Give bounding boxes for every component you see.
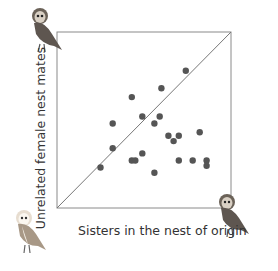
diagonal-reference-line (57, 32, 231, 208)
data-point (157, 113, 163, 119)
data-point (203, 163, 209, 169)
data-point (176, 157, 182, 163)
data-point (132, 157, 138, 163)
data-point (97, 164, 103, 170)
data-point (110, 145, 116, 151)
data-point (190, 157, 196, 163)
data-point (151, 170, 157, 176)
data-point (176, 133, 182, 139)
data-point (110, 120, 116, 126)
data-point (139, 113, 145, 119)
data-point (139, 150, 145, 156)
data-point (158, 85, 164, 91)
data-point (183, 68, 189, 74)
x-axis-label: Sisters in the nest of origin (78, 223, 247, 238)
y-axis-label: Unrelated female nest mates (33, 38, 51, 238)
data-point (165, 133, 171, 139)
data-points (97, 68, 210, 177)
data-point (129, 94, 135, 100)
data-point (197, 129, 203, 135)
data-point (151, 120, 157, 126)
data-point (170, 138, 176, 144)
